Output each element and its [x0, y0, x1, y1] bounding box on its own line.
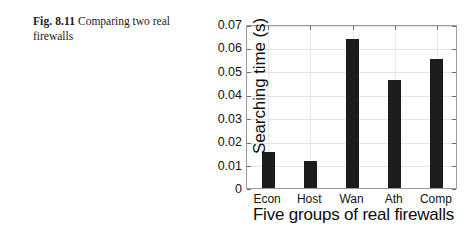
x-tick-label-wan: Wan	[339, 192, 363, 206]
y-axis-tick-right	[452, 143, 456, 144]
y-tick-label-0.05: 0.05	[218, 66, 242, 78]
x-axis-tick-top	[353, 26, 354, 30]
x-axis-tick-top	[395, 26, 396, 30]
bar-chart-figure: 00.010.020.030.040.050.060.07 EconHostWa…	[0, 0, 471, 230]
x-tick-label-comp: Comp	[420, 192, 452, 206]
x-tick-label-ath: Ath	[385, 192, 403, 206]
y-tick-label-0.04: 0.04	[218, 89, 242, 101]
x-axis-label: Five groups of real firewalls	[236, 205, 471, 225]
plot-area	[246, 25, 457, 189]
y-axis-tick-right	[452, 49, 456, 50]
y-tick-label-0.07: 0.07	[218, 19, 242, 31]
y-axis-label: Searching time (s)	[250, 0, 270, 186]
gridline-horizontal	[247, 26, 456, 27]
y-axis-tick-right	[452, 96, 456, 97]
bar-ath[interactable]	[388, 80, 401, 188]
y-axis-tick-right	[452, 119, 456, 120]
y-tick-label-0.06: 0.06	[218, 42, 242, 54]
y-axis-tick-labels: 00.010.020.030.040.050.060.07	[190, 25, 242, 189]
y-axis-tick-right	[452, 26, 456, 27]
y-tick-label-0.02: 0.02	[218, 136, 242, 148]
y-tick-label-0.03: 0.03	[218, 113, 242, 125]
y-axis-tick-right	[452, 72, 456, 73]
y-tick-label-0.01: 0.01	[218, 160, 242, 172]
y-axis-tick-right	[452, 189, 456, 190]
y-axis-tick-right	[452, 166, 456, 167]
y-axis-label-wrapper: Searching time (s)	[166, 16, 190, 196]
bar-wan[interactable]	[346, 39, 359, 188]
bar-comp[interactable]	[430, 59, 443, 188]
y-tick-label-0: 0	[235, 183, 242, 195]
x-tick-label-econ: Econ	[253, 192, 280, 206]
bar-host[interactable]	[304, 161, 317, 188]
y-axis-tick	[247, 189, 251, 190]
x-axis-tick-top	[310, 26, 311, 30]
x-axis-tick-top	[437, 26, 438, 30]
x-tick-label-host: Host	[297, 192, 322, 206]
